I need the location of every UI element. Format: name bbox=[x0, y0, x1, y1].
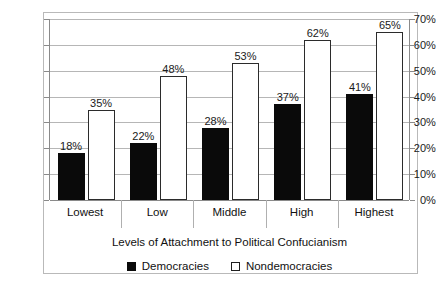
chart-legend: Democracies Nondemocracies bbox=[49, 260, 410, 272]
legend-label-democracies: Democracies bbox=[142, 260, 209, 272]
bar-democracies-low: 22% bbox=[130, 143, 157, 200]
bar-value-label: 28% bbox=[204, 115, 226, 127]
hollow-square-icon bbox=[231, 262, 240, 271]
x-tick-label-low: Low bbox=[121, 206, 193, 218]
bar-group-low: 22%48% bbox=[122, 19, 194, 200]
x-axis-separator bbox=[266, 200, 267, 228]
bar-democracies-middle: 28% bbox=[202, 128, 229, 200]
bar-nondemocracies-middle: 53% bbox=[232, 63, 259, 200]
bar-nondemocracies-highest: 65% bbox=[376, 32, 403, 200]
x-tick-label-highest: Highest bbox=[338, 206, 410, 218]
bar-nondemocracies-high: 62% bbox=[304, 40, 331, 200]
bar-value-label: 41% bbox=[349, 81, 371, 93]
bar-nondemocracies-low: 48% bbox=[160, 76, 187, 200]
bar-value-label: 18% bbox=[60, 140, 82, 152]
bar-nondemocracies-lowest: 35% bbox=[88, 110, 115, 201]
legend-item-democracies: Democracies bbox=[127, 260, 209, 272]
bar-value-label: 22% bbox=[132, 130, 154, 142]
x-axis-separator bbox=[338, 200, 339, 228]
bar-democracies-high: 37% bbox=[274, 104, 301, 200]
x-axis-title: Levels of Attachment to Political Confuc… bbox=[49, 236, 410, 248]
bar-value-label: 37% bbox=[277, 91, 299, 103]
legend-item-nondemocracies: Nondemocracies bbox=[231, 260, 332, 272]
bar-group-middle: 28%53% bbox=[194, 19, 266, 200]
x-axis-separator bbox=[193, 200, 194, 228]
bar-group-high: 37%62% bbox=[267, 19, 339, 200]
filled-square-icon bbox=[127, 262, 136, 271]
bar-value-label: 65% bbox=[379, 19, 401, 31]
bar-value-label: 53% bbox=[234, 50, 256, 62]
bar-value-label: 62% bbox=[307, 27, 329, 39]
bar-chart: 0%10%20%30%40%50%60%70% 18%35%22%48%28%5… bbox=[0, 0, 436, 291]
bar-group-highest: 41%65% bbox=[339, 19, 411, 200]
bar-value-label: 35% bbox=[90, 97, 112, 109]
bar-democracies-highest: 41% bbox=[346, 94, 373, 200]
x-axis-separator bbox=[121, 200, 122, 228]
bar-group-lowest: 18%35% bbox=[50, 19, 122, 200]
bar-value-label: 48% bbox=[162, 63, 184, 75]
x-axis-categories: LowestLowMiddleHighHighest bbox=[49, 200, 410, 228]
x-tick-label-high: High bbox=[266, 206, 338, 218]
x-tick-label-middle: Middle bbox=[193, 206, 265, 218]
plot-area: 18%35%22%48%28%53%37%62%41%65% bbox=[49, 19, 410, 200]
bar-democracies-lowest: 18% bbox=[58, 153, 85, 200]
legend-label-nondemocracies: Nondemocracies bbox=[246, 260, 332, 272]
x-tick-label-lowest: Lowest bbox=[49, 206, 121, 218]
y-tick-mark-right-0% bbox=[410, 200, 415, 201]
